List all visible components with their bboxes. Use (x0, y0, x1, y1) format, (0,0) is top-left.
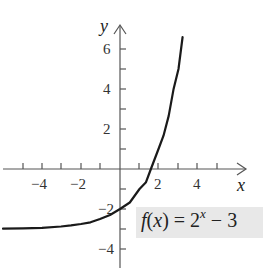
y-axis (114, 25, 126, 268)
fn-tail: − 3 (206, 209, 237, 231)
x-tick-label-neg4: −4 (31, 176, 47, 192)
function-curve (3, 37, 183, 229)
fn-base: ) = 2 (162, 209, 200, 231)
y-tick-label-4: 4 (103, 81, 111, 97)
function-label: f(x) = 2x − 3 (141, 209, 237, 232)
fn-var: x (153, 209, 162, 231)
x-tick-label-2: 2 (154, 176, 162, 192)
x-axis (3, 163, 246, 175)
y-axis-label: y (98, 16, 108, 36)
y-tick-label-2: 2 (103, 121, 111, 137)
y-axis-ticks (120, 49, 126, 249)
y-tick-label-neg4: −4 (98, 241, 114, 257)
y-tick-label-6: 6 (103, 41, 111, 57)
x-tick-label-4: 4 (193, 176, 201, 192)
x-tick-label-neg2: −2 (70, 176, 86, 192)
x-axis-label: x (236, 175, 245, 195)
